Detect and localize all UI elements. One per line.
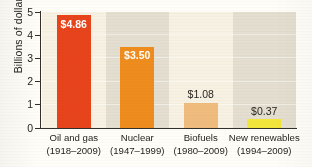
y-axis-line	[40, 11, 41, 129]
y-axis-tick-label: 0	[20, 123, 33, 134]
y-axis-tick	[35, 12, 40, 13]
y-axis-tick-label: 2	[20, 76, 33, 87]
bar-value-label: $0.37	[247, 106, 281, 117]
y-axis-tick	[35, 128, 40, 129]
y-axis-tick-label: 4	[20, 30, 33, 41]
y-axis-tick	[35, 104, 40, 105]
category-name: Nuclear	[101, 131, 173, 144]
bar-oil-and-gas	[57, 15, 91, 128]
bar-value-label: $3.50	[120, 50, 154, 61]
category-label-nuclear: Nuclear(1947–1999)	[101, 131, 173, 157]
x-axis-line	[40, 128, 297, 129]
category-label-new-renewables: New renewables(1994–2009)	[221, 131, 307, 157]
bar-value-label: $1.08	[184, 89, 218, 100]
x-axis-category-labels: Oil and gas(1918–2009)Nuclear(1947–1999)…	[42, 131, 310, 165]
y-axis-tick-label: 3	[20, 53, 33, 64]
category-years: (1918–2009)	[37, 144, 111, 157]
bar-chart: Billions of dollars $4.86$3.50$1.08$0.37…	[0, 0, 312, 167]
y-axis-tick	[35, 81, 40, 82]
plot-area: $4.86$3.50$1.08$0.37	[42, 12, 296, 128]
category-name: New renewables	[221, 131, 307, 144]
bar-biofuels	[184, 103, 218, 128]
category-name: Oil and gas	[37, 131, 111, 144]
y-axis-tick	[35, 58, 40, 59]
y-axis-tick	[35, 35, 40, 36]
y-axis-tick-label: 5	[20, 7, 33, 18]
bar-value-label: $4.86	[57, 19, 91, 30]
y-axis-tick-label: 1	[20, 99, 33, 110]
category-label-oil-and-gas: Oil and gas(1918–2009)	[37, 131, 111, 157]
category-years: (1947–1999)	[101, 144, 173, 157]
bar-new-renewables	[247, 119, 281, 128]
category-years: (1994–2009)	[221, 144, 307, 157]
